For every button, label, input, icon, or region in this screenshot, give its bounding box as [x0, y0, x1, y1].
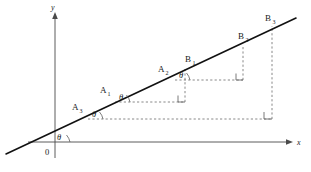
theta-label-origin: θ [57, 132, 61, 142]
point-letter-A3: A [72, 102, 79, 112]
theta-label-a2: θ [179, 70, 183, 80]
y-axis-arrowhead [52, 12, 58, 19]
point-subscript-B2: 2 [246, 37, 249, 43]
point-subscript-A2: 2 [166, 70, 169, 76]
angle-arc-a2 [187, 73, 191, 80]
point-letter-A2: A [158, 64, 165, 74]
point-letter-B2: B [238, 31, 244, 41]
triangle-a1-b1 [115, 69, 185, 102]
right-angle-mark-b3 [264, 112, 272, 119]
point-letter-B1: B [185, 54, 191, 64]
y-axis-label: y [50, 3, 55, 12]
point-label-B3: B 3 [265, 13, 276, 25]
x-axis-label: x [296, 138, 301, 147]
point-label-A2: A 2 [158, 64, 169, 76]
figure-canvas: x y 0 [0, 0, 311, 172]
right-angle-mark-b1 [178, 96, 185, 103]
angle-arc-origin [67, 135, 71, 142]
right-angle-mark-b2 [236, 74, 243, 81]
point-subscript-B3: 3 [273, 19, 276, 25]
point-label-A1: A 1 [100, 85, 111, 97]
straight-line [6, 18, 296, 154]
point-letter-B3: B [265, 13, 271, 23]
angle-arc-a3 [100, 112, 104, 119]
point-label-B1: B 1 [185, 54, 196, 66]
x-axis-arrowhead [286, 139, 293, 145]
point-label-A3: A 3 [72, 102, 83, 114]
theta-label-a1: θ [119, 92, 123, 102]
point-subscript-B1: 1 [193, 60, 196, 66]
geometry-figure: x y 0 [0, 0, 311, 172]
point-letter-A1: A [100, 85, 107, 95]
point-subscript-A3: 3 [80, 108, 83, 114]
theta-label-a3: θ [92, 109, 96, 119]
point-label-B2: B 2 [238, 31, 249, 43]
angle-arcs-group [67, 73, 191, 142]
point-subscript-A1: 1 [108, 91, 111, 97]
origin-label: 0 [45, 147, 49, 157]
